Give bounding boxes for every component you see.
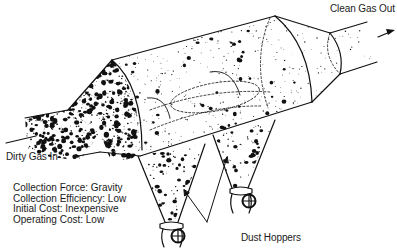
dust-particle	[74, 133, 76, 135]
dust-particle	[194, 158, 195, 159]
dust-particle	[121, 26, 122, 27]
dust-particle	[155, 190, 156, 191]
dust-particle	[148, 164, 150, 166]
dust-particle	[129, 96, 130, 97]
dust-particle	[185, 119, 186, 120]
dust-particle	[203, 222, 204, 223]
dust-particle	[101, 103, 105, 106]
dust-particle	[107, 145, 111, 149]
dust-particle	[76, 146, 81, 151]
dust-particle	[158, 75, 159, 76]
dust-particle	[168, 166, 170, 167]
dust-particle	[239, 140, 240, 141]
dust-particle	[89, 145, 93, 148]
dust-particle	[107, 93, 108, 94]
dust-particle	[130, 99, 133, 101]
dust-particle	[233, 112, 237, 117]
dust-particle	[109, 52, 113, 55]
chamber-body-dust	[109, 13, 314, 158]
dust-particle	[125, 84, 126, 85]
dust-particle	[79, 73, 80, 74]
dust-particle	[139, 174, 142, 178]
dust-particle	[100, 107, 103, 110]
dust-particle	[177, 179, 181, 182]
dust-particle	[70, 117, 73, 120]
dust-particle	[280, 80, 281, 81]
dust-particle	[238, 40, 241, 43]
dust-particle	[312, 111, 313, 112]
dust-particle	[231, 46, 232, 47]
dust-particle	[275, 86, 276, 87]
dust-particle	[69, 128, 70, 129]
dust-particle	[199, 93, 200, 94]
dust-particle	[187, 119, 188, 120]
dust-particle	[316, 95, 317, 96]
dust-particle	[97, 113, 98, 114]
dust-particle	[82, 75, 84, 77]
specs-list: Collection Force: Gravity Collection Eff…	[13, 183, 126, 225]
dust-particle	[183, 147, 184, 148]
dust-particle	[311, 50, 312, 51]
dust-particle	[91, 159, 93, 161]
dust-particle	[364, 68, 365, 69]
dust-particle	[113, 135, 115, 137]
dust-particle	[135, 133, 136, 134]
dust-particle	[205, 173, 207, 175]
dust-particle	[291, 16, 292, 17]
dust-particle	[137, 131, 138, 132]
dust-particle	[135, 167, 139, 170]
dust-particle	[175, 27, 176, 28]
dust-particle	[144, 141, 147, 143]
dust-particle	[143, 182, 148, 187]
dust-particle	[158, 86, 159, 87]
dust-particle	[299, 112, 304, 115]
dust-particle	[70, 73, 75, 79]
dust-particle	[110, 23, 111, 24]
dust-particle	[372, 38, 373, 39]
dust-particle	[95, 114, 97, 115]
dust-particle	[139, 82, 140, 83]
dust-particle	[258, 125, 259, 126]
dust-particle	[150, 146, 151, 147]
dust-particle	[120, 103, 122, 105]
dust-particle	[333, 55, 334, 56]
dust-particle	[53, 144, 54, 145]
dust-particle	[78, 137, 81, 139]
dust-particle	[90, 64, 91, 65]
dust-particle	[81, 117, 85, 121]
dust-particle	[276, 148, 279, 152]
dust-particle	[98, 124, 99, 125]
dust-particle	[253, 127, 254, 128]
dust-particle	[235, 145, 236, 146]
dust-particle	[75, 151, 80, 155]
dust-particle	[204, 131, 205, 132]
dust-particle	[284, 90, 285, 91]
dust-particle	[95, 85, 96, 86]
dust-particle	[23, 122, 28, 128]
dust-particle	[212, 21, 213, 22]
dust-particle	[199, 166, 201, 168]
dust-particle	[136, 89, 137, 90]
dust-particle	[212, 40, 213, 41]
dust-particle	[237, 149, 238, 150]
dust-particle	[169, 134, 170, 135]
dust-particle	[79, 99, 80, 100]
dust-particle	[94, 73, 95, 74]
dust-particle	[69, 132, 73, 136]
dust-particle	[231, 136, 232, 137]
dust-particle	[255, 97, 256, 98]
dust-particle	[127, 95, 128, 97]
dust-particle	[196, 17, 197, 18]
dust-particle	[137, 125, 138, 126]
dust-particle	[333, 33, 334, 34]
dust-particle	[47, 140, 48, 141]
dust-particle	[83, 95, 85, 96]
dust-particle	[81, 107, 82, 108]
dust-particle	[78, 112, 79, 113]
dust-particle	[160, 63, 161, 64]
dust-particle	[85, 94, 86, 95]
dust-particle	[210, 107, 211, 108]
dust-particle	[84, 145, 88, 148]
dust-particle	[143, 194, 145, 196]
dust-particle	[279, 103, 280, 104]
